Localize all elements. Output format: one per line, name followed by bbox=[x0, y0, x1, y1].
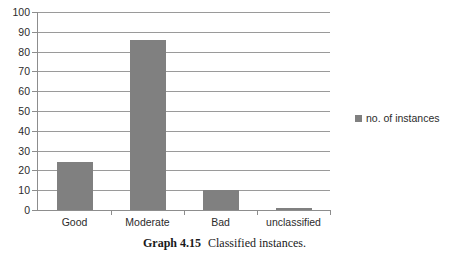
y-axis-tick bbox=[32, 91, 38, 92]
gridline bbox=[38, 151, 330, 152]
chart-legend: no. of instances bbox=[355, 113, 440, 124]
y-axis-tick bbox=[32, 210, 38, 211]
x-axis-category-label: Moderate bbox=[111, 216, 184, 228]
legend-item-label: no. of instances bbox=[366, 113, 440, 124]
y-axis-tick bbox=[32, 32, 38, 33]
figure-container: 0102030405060708090100 GoodModerateBadun… bbox=[0, 0, 449, 257]
caption-text: Classified instances. bbox=[208, 236, 306, 250]
gridline bbox=[38, 71, 330, 72]
caption-number: Graph 4.15 bbox=[143, 236, 201, 250]
y-axis-labels: 0102030405060708090100 bbox=[0, 0, 30, 237]
gridline bbox=[38, 32, 330, 33]
y-axis-tick bbox=[32, 170, 38, 171]
bar bbox=[276, 208, 312, 210]
x-axis-tick bbox=[330, 210, 331, 215]
y-axis-tick-label: 50 bbox=[0, 106, 30, 116]
y-axis-tick-label: 90 bbox=[0, 27, 30, 37]
bar bbox=[57, 162, 93, 210]
plot-area bbox=[38, 12, 330, 210]
y-axis-tick bbox=[32, 131, 38, 132]
bar bbox=[130, 40, 166, 210]
y-axis-tick-label: 80 bbox=[0, 47, 30, 57]
x-axis-tick bbox=[184, 210, 185, 215]
bar bbox=[203, 190, 239, 210]
y-axis-tick bbox=[32, 151, 38, 152]
y-axis-tick-label: 100 bbox=[0, 7, 30, 17]
y-axis-tick bbox=[32, 12, 38, 13]
gridline bbox=[38, 12, 330, 13]
x-axis-category-label: unclassified bbox=[257, 216, 330, 228]
gridline bbox=[38, 131, 330, 132]
gridline bbox=[38, 111, 330, 112]
gridline bbox=[38, 91, 330, 92]
y-axis-tick-label: 60 bbox=[0, 86, 30, 96]
x-axis-tick bbox=[257, 210, 258, 215]
y-axis-tick-label: 70 bbox=[0, 66, 30, 76]
x-axis-category-label: Good bbox=[38, 216, 111, 228]
y-axis-tick bbox=[32, 71, 38, 72]
bar-chart: 0102030405060708090100 GoodModerateBadun… bbox=[0, 0, 340, 237]
y-axis-tick bbox=[32, 190, 38, 191]
y-axis-tick bbox=[32, 52, 38, 53]
gridline bbox=[38, 52, 330, 53]
x-axis-tick bbox=[111, 210, 112, 215]
x-axis-category-label: Bad bbox=[184, 216, 257, 228]
y-axis-tick-label: 0 bbox=[0, 205, 30, 215]
y-axis-tick-label: 20 bbox=[0, 165, 30, 175]
y-axis-tick bbox=[32, 111, 38, 112]
legend-swatch-icon bbox=[355, 115, 362, 122]
figure-caption: Graph 4.15Classified instances. bbox=[0, 236, 449, 250]
y-axis-tick-label: 40 bbox=[0, 126, 30, 136]
y-axis-tick-label: 10 bbox=[0, 185, 30, 195]
y-axis-tick-label: 30 bbox=[0, 146, 30, 156]
